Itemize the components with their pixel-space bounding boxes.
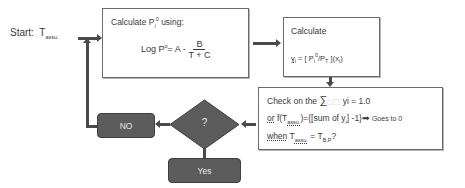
eq-denominator: T + C xyxy=(188,50,210,60)
box1-title-sub: i xyxy=(154,23,155,29)
f-p-sub: i xyxy=(314,58,315,64)
l3-q: ? xyxy=(332,131,337,141)
box3-line2: or f(Tassu.)={[sum of yi] -1}➡ Goes to 0 xyxy=(267,113,402,125)
box1-title-text: Calculate P xyxy=(111,17,154,27)
box3-line1: Check on the ∑⬚⬚ yi = 1.0 xyxy=(267,94,370,106)
l3-t: T xyxy=(287,131,294,141)
calc-vapor-pressure-box: Calculate Pi0 using: Log Po= A - B T + C xyxy=(102,8,249,78)
box3-to-decision-arrowhead xyxy=(241,120,246,128)
start-text: Start: xyxy=(10,27,34,38)
l2-goes: Goes to 0 xyxy=(370,115,402,122)
box2-formula: yi = [ Pi0/PT ](xi) xyxy=(291,52,343,64)
box2-title: Calculate xyxy=(291,26,326,36)
decision-label: ? xyxy=(169,117,240,128)
box1-title-rest: using: xyxy=(159,17,184,27)
f-end: ](x xyxy=(328,54,338,63)
l2-f-sub: assu. xyxy=(287,119,300,125)
yes-box: Yes xyxy=(168,158,241,183)
antoine-equation: Log Po= A - B T + C xyxy=(141,39,210,60)
l2-f: f(T xyxy=(275,113,288,123)
loop-back-arrowhead xyxy=(83,38,91,43)
eq-numerator: B xyxy=(193,39,205,50)
loop-back-line xyxy=(86,40,89,128)
l2-end: ] -1} xyxy=(347,113,362,123)
box3-line3: when Tassu. = TB,P? xyxy=(267,131,336,143)
decision-to-no-arrow xyxy=(160,123,170,126)
eq-fraction: B T + C xyxy=(188,39,210,60)
l2-or: or xyxy=(267,113,275,123)
box1-to-box2-arrowhead xyxy=(276,39,281,47)
f-close: ) xyxy=(340,54,343,63)
no-box: NO xyxy=(97,113,155,138)
decision-to-yes-line xyxy=(203,148,206,158)
f-eq: = [ P xyxy=(296,54,314,63)
box3-to-decision-arrow xyxy=(246,123,256,126)
convergence-check-box: Check on the ∑⬚⬚ yi = 1.0 or f(Tassu.)={… xyxy=(258,87,443,150)
l1-suffix: yi = 1.0 xyxy=(340,96,370,106)
right-arrow-icon: ➡ xyxy=(362,113,370,123)
box1-title: Calculate Pi0 using: xyxy=(111,16,184,29)
eq-mid: = A - xyxy=(168,44,186,54)
l3-when: when xyxy=(267,131,287,141)
l3-eq: = T xyxy=(308,131,323,141)
l1-prefix: Check on the xyxy=(267,96,319,106)
eq-left: Log P xyxy=(141,44,165,54)
l3-t-sub: assu. xyxy=(295,137,308,143)
calc-vapor-fraction-box: Calculate yi = [ Pi0/PT ](xi) xyxy=(283,17,380,77)
start-var-sub: assu. xyxy=(45,34,58,40)
start-label: Start: Tassu. xyxy=(10,27,59,40)
l2-mid: )={[sum of y xyxy=(300,113,345,123)
decision-to-no-arrowhead xyxy=(155,120,160,128)
l3-bp-sub: B,P xyxy=(323,137,332,143)
box1-to-box2-arrow xyxy=(253,42,277,45)
